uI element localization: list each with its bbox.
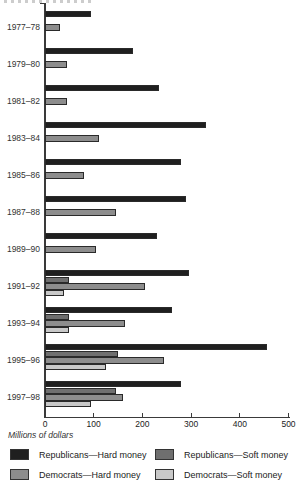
category-label: 1997–98 bbox=[0, 392, 40, 402]
x-tick-label: 400 bbox=[233, 419, 247, 429]
bar-republicans-hard-money-1991-92 bbox=[45, 270, 189, 276]
x-tick bbox=[93, 413, 94, 418]
bar-democrats-soft-money-1991-92 bbox=[45, 290, 64, 296]
x-tick-label: 200 bbox=[135, 419, 149, 429]
bar-democrats-hard-money-1989-90 bbox=[45, 246, 96, 252]
bar-democrats-hard-money-1981-82 bbox=[45, 98, 67, 104]
bar-democrats-hard-money-1987-88 bbox=[45, 209, 116, 215]
cropped-text-remnant bbox=[4, 0, 92, 3]
legend-swatch-republicans-soft-money bbox=[155, 449, 174, 460]
category-label: 1981–82 bbox=[0, 96, 40, 106]
bar-republicans-soft-money-1995-96 bbox=[45, 351, 118, 357]
bar-republicans-hard-money-1979-80 bbox=[45, 48, 133, 54]
bar-republicans-hard-money-1987-88 bbox=[45, 196, 186, 202]
x-tick-label: 100 bbox=[87, 419, 101, 429]
bar-democrats-hard-money-1995-96 bbox=[45, 357, 164, 363]
bar-democrats-soft-money-1993-94 bbox=[45, 327, 69, 333]
category-label: 1993–94 bbox=[0, 318, 40, 328]
bar-republicans-hard-money-1985-86 bbox=[45, 159, 181, 165]
category-label: 1989–90 bbox=[0, 244, 40, 254]
category-label: 1995–96 bbox=[0, 355, 40, 365]
bar-democrats-hard-money-1979-80 bbox=[45, 61, 67, 67]
bar-republicans-hard-money-1997-98 bbox=[45, 381, 181, 387]
category-label: 1977–78 bbox=[0, 22, 40, 32]
bar-democrats-hard-money-1985-86 bbox=[45, 172, 84, 178]
bar-republicans-soft-money-1997-98 bbox=[45, 388, 116, 394]
x-tick-label: 0 bbox=[43, 419, 48, 429]
bar-republicans-soft-money-1991-92 bbox=[45, 277, 69, 283]
bar-democrats-hard-money-1983-84 bbox=[45, 135, 99, 141]
bar-republicans-hard-money-1989-90 bbox=[45, 233, 157, 239]
x-tick-label: 300 bbox=[184, 419, 198, 429]
bar-republicans-soft-money-1993-94 bbox=[45, 314, 69, 320]
campaign-finance-bar-chart: 1977–781979–801981–821983–841985–861987–… bbox=[0, 0, 303, 492]
legend-swatch-democrats-soft-money bbox=[155, 469, 174, 480]
bar-democrats-hard-money-1977-78 bbox=[45, 24, 60, 30]
x-tick-label: 500 bbox=[281, 419, 295, 429]
bar-democrats-soft-money-1997-98 bbox=[45, 401, 91, 407]
bar-republicans-hard-money-1981-82 bbox=[45, 85, 159, 91]
legend-label-republicans-hard-money: Republicans—Hard money bbox=[39, 450, 147, 460]
y-axis-top-tick bbox=[40, 3, 45, 4]
x-axis-line bbox=[44, 417, 290, 418]
x-tick bbox=[191, 413, 192, 418]
legend-label-democrats-hard-money: Democrats—Hard money bbox=[39, 470, 141, 480]
legend-swatch-republicans-hard-money bbox=[10, 449, 29, 460]
bar-republicans-hard-money-1995-96 bbox=[45, 344, 267, 350]
category-label: 1979–80 bbox=[0, 59, 40, 69]
bar-republicans-hard-money-1977-78 bbox=[45, 11, 91, 17]
x-tick bbox=[239, 413, 240, 418]
x-tick bbox=[142, 413, 143, 418]
legend-swatch-democrats-hard-money bbox=[10, 469, 29, 480]
legend-label-republicans-soft-money: Republicans—Soft money bbox=[184, 450, 288, 460]
bar-democrats-soft-money-1995-96 bbox=[45, 364, 106, 370]
x-axis-unit-label: Millions of dollars bbox=[8, 430, 73, 440]
bar-democrats-hard-money-1993-94 bbox=[45, 320, 125, 326]
category-label: 1985–86 bbox=[0, 170, 40, 180]
bar-republicans-hard-money-1983-84 bbox=[45, 122, 206, 128]
category-label: 1987–88 bbox=[0, 207, 40, 217]
x-tick bbox=[288, 413, 289, 418]
legend-label-democrats-soft-money: Democrats—Soft money bbox=[184, 470, 282, 480]
category-label: 1991–92 bbox=[0, 281, 40, 291]
category-label: 1983–84 bbox=[0, 133, 40, 143]
bar-republicans-hard-money-1993-94 bbox=[45, 307, 172, 313]
bar-democrats-hard-money-1991-92 bbox=[45, 283, 145, 289]
bar-democrats-hard-money-1997-98 bbox=[45, 394, 123, 400]
